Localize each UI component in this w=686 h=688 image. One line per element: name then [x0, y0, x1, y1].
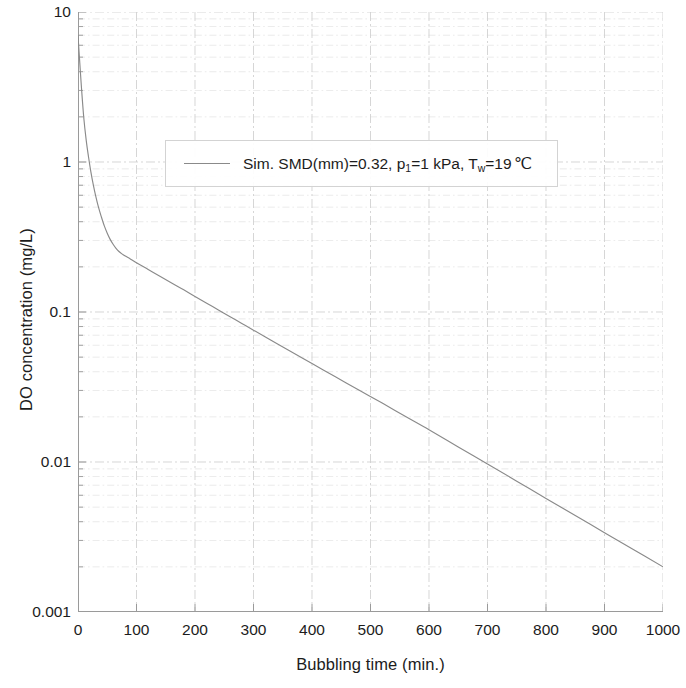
- y-tick-label: 0.1: [49, 303, 71, 321]
- y-tick-label: 10: [54, 3, 71, 21]
- x-tick-label: 400: [299, 621, 325, 639]
- legend-text-mid: =1 kPa, T: [411, 155, 478, 172]
- legend-subscript-p: 1: [405, 162, 411, 174]
- x-tick-label: 200: [182, 621, 208, 639]
- chart-legend: Sim. SMD(mm)=0.32, p1=1 kPa, Tw=19℃: [165, 140, 558, 187]
- x-tick-label: 600: [416, 621, 442, 639]
- y-tick-label: 1: [62, 153, 71, 171]
- x-tick-label: 1000: [646, 621, 680, 639]
- x-axis-ticks: [78, 604, 663, 612]
- x-tick-label: 0: [74, 621, 83, 639]
- legend-text-prefix: Sim. SMD(mm)=0.32, p: [243, 155, 405, 172]
- plot-area: 1010.10.010.001 010020030040050060070080…: [78, 12, 663, 612]
- x-tick-label: 100: [124, 621, 150, 639]
- x-tick-label: 700: [475, 621, 501, 639]
- legend-label: Sim. SMD(mm)=0.32, p1=1 kPa, Tw=19℃: [243, 155, 532, 173]
- x-tick-label: 300: [241, 621, 267, 639]
- chart-figure: DO concentration (mg/L) 1010.10.010.001 …: [0, 0, 686, 688]
- legend-line-swatch: [184, 163, 230, 164]
- legend-subscript-t: w: [478, 162, 486, 174]
- y-tick-label: 0.001: [32, 603, 71, 621]
- x-tick-label: 500: [358, 621, 384, 639]
- x-tick-label: 900: [592, 621, 618, 639]
- x-axis-title: Bubbling time (min.): [78, 655, 663, 674]
- y-tick-label: 0.01: [41, 453, 71, 471]
- legend-unit-celsius: ℃: [514, 155, 532, 172]
- y-axis-title: DO concentration (mg/L): [17, 190, 36, 450]
- legend-text-suffix: =19: [485, 155, 511, 172]
- plot-canvas: [78, 12, 663, 612]
- x-tick-label: 800: [533, 621, 559, 639]
